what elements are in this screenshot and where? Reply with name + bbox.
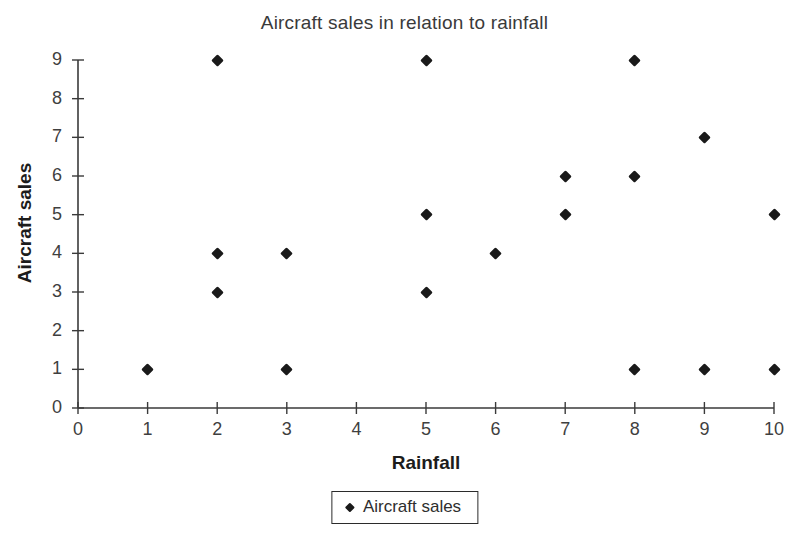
data-point bbox=[211, 247, 224, 260]
y-tick-label: 9 bbox=[22, 49, 62, 70]
x-tick-label: 4 bbox=[336, 419, 376, 440]
data-point bbox=[420, 54, 433, 67]
data-point bbox=[628, 170, 641, 183]
data-point bbox=[420, 286, 433, 299]
data-point bbox=[628, 363, 641, 376]
data-point bbox=[211, 286, 224, 299]
x-tick-label: 1 bbox=[128, 419, 168, 440]
plot-area bbox=[78, 60, 774, 408]
x-tick-label: 10 bbox=[754, 419, 794, 440]
x-tick-label: 8 bbox=[615, 419, 655, 440]
scatter-chart: Aircraft sales in relation to rainfall 0… bbox=[0, 0, 809, 543]
chart-legend: Aircraft sales bbox=[331, 491, 478, 524]
x-tick-label: 5 bbox=[406, 419, 446, 440]
legend-item-label: Aircraft sales bbox=[363, 497, 461, 517]
y-tick-label: 0 bbox=[22, 397, 62, 418]
chart-title: Aircraft sales in relation to rainfall bbox=[0, 12, 809, 34]
data-point bbox=[559, 208, 572, 221]
legend-marker-icon bbox=[344, 502, 354, 512]
y-tick-label: 8 bbox=[22, 88, 62, 109]
x-tick-label: 7 bbox=[545, 419, 585, 440]
data-point bbox=[211, 54, 224, 67]
data-point bbox=[489, 247, 502, 260]
data-point bbox=[280, 247, 293, 260]
y-axis-title: Aircraft sales bbox=[14, 113, 36, 333]
x-tick-label: 9 bbox=[684, 419, 724, 440]
x-axis-title: Rainfall bbox=[78, 452, 774, 474]
x-tick-label: 3 bbox=[267, 419, 307, 440]
data-point bbox=[698, 363, 711, 376]
data-point bbox=[141, 363, 154, 376]
x-tick-label: 2 bbox=[197, 419, 237, 440]
data-point bbox=[768, 208, 781, 221]
data-point bbox=[768, 363, 781, 376]
x-tick-label: 6 bbox=[476, 419, 516, 440]
y-tick-label: 1 bbox=[22, 358, 62, 379]
data-point bbox=[559, 170, 572, 183]
data-point bbox=[280, 363, 293, 376]
data-point bbox=[420, 208, 433, 221]
data-point bbox=[698, 131, 711, 144]
x-tick-label: 0 bbox=[58, 419, 98, 440]
data-point bbox=[628, 54, 641, 67]
